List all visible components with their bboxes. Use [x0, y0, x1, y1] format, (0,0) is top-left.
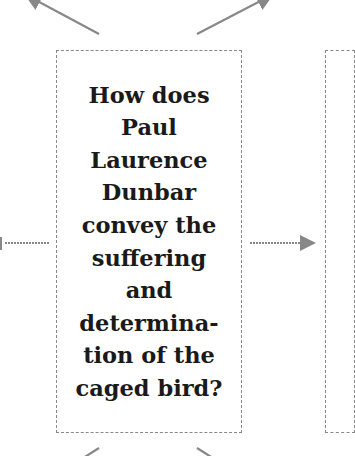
arrow-up-right: [197, 0, 270, 34]
central-question-box: How does Paul Laurence Dunbar convey the…: [56, 50, 242, 433]
arrow-down-right: [197, 448, 216, 456]
arrow-down-left: [80, 448, 99, 456]
question-line: and: [76, 274, 223, 307]
question-line: suffering: [76, 242, 223, 275]
right-node-box: [325, 50, 355, 433]
question-line: How does: [76, 79, 223, 112]
arrow-up-left: [28, 0, 99, 34]
question-line: convey the: [76, 209, 223, 242]
central-question-text: How does Paul Laurence Dunbar convey the…: [70, 79, 229, 405]
question-line: Dunbar: [76, 176, 223, 209]
question-line: tion of the: [76, 339, 223, 372]
question-line: Paul: [76, 111, 223, 144]
question-line: caged bird?: [76, 372, 223, 405]
question-line: Laurence: [76, 144, 223, 177]
question-line: determina-: [76, 307, 223, 340]
